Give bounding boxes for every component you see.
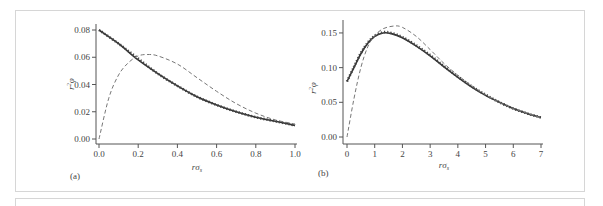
y-tick-label: 0.08 bbox=[74, 25, 90, 35]
x-tick-label: 3 bbox=[428, 149, 433, 159]
figure-canvas: 0.000.020.040.060.080.00.20.40.60.81.0rσ… bbox=[0, 0, 603, 206]
series-solid-line bbox=[347, 33, 541, 118]
x-tick-label: 0.0 bbox=[93, 149, 105, 159]
x-tick-label: 1 bbox=[372, 149, 377, 159]
y-tick-label: 0.02 bbox=[74, 107, 90, 117]
series-dotted-line bbox=[99, 30, 295, 125]
y-tick-label: 0.06 bbox=[74, 52, 90, 62]
x-tick-label: 7 bbox=[539, 149, 544, 159]
y-tick-label: 0.15 bbox=[321, 28, 337, 38]
panel-label: (a) bbox=[70, 171, 80, 181]
series-dotted-line bbox=[347, 32, 541, 118]
x-tick-label: 0.8 bbox=[250, 149, 262, 159]
x-tick-label: 0.6 bbox=[211, 149, 223, 159]
x-tick-label: 5 bbox=[483, 149, 488, 159]
y-tick-label: 0.04 bbox=[74, 80, 90, 90]
x-axis-label: rσs bbox=[192, 162, 203, 173]
chart-b: 0.000.050.100.1501234567rσsr2φ(b) bbox=[308, 20, 544, 178]
x-tick-label: 2 bbox=[400, 149, 405, 159]
series-dashed-line bbox=[347, 26, 541, 137]
y-tick-label: 0.00 bbox=[74, 134, 90, 144]
chart-a: 0.000.020.040.060.080.00.20.40.60.81.0rσ… bbox=[66, 24, 301, 181]
x-tick-label: 0 bbox=[345, 149, 350, 159]
panel-label: (b) bbox=[318, 168, 329, 178]
x-tick-label: 6 bbox=[511, 149, 516, 159]
y-axis-label: r2φ bbox=[66, 78, 76, 90]
x-axis-label: rσs bbox=[439, 160, 450, 171]
x-tick-label: 1.0 bbox=[289, 149, 301, 159]
x-tick-label: 0.2 bbox=[133, 149, 144, 159]
series-solid-line bbox=[99, 30, 295, 125]
y-tick-label: 0.00 bbox=[321, 132, 337, 142]
x-tick-label: 0.4 bbox=[172, 149, 184, 159]
x-tick-label: 4 bbox=[456, 149, 461, 159]
y-axis-label: r2φ bbox=[308, 82, 318, 94]
y-tick-label: 0.10 bbox=[321, 63, 337, 73]
y-tick-label: 0.05 bbox=[321, 97, 337, 107]
